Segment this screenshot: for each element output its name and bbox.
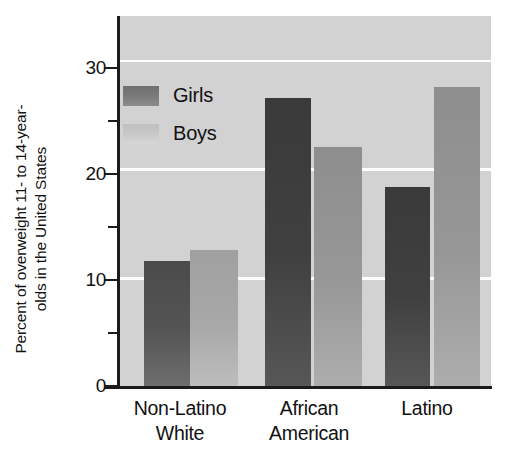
y-tick-label-20: 20 xyxy=(85,163,106,185)
y-axis-title-line-2: olds in the United States xyxy=(31,104,51,353)
x-group-label-african-american-line-1: African xyxy=(244,396,374,421)
legend-label-girls: Girls xyxy=(173,84,213,107)
x-group-label-latino-line-1: Latino xyxy=(372,396,482,421)
legend-item-girls: Girls xyxy=(123,84,213,107)
legend-item-boys: Boys xyxy=(123,122,217,145)
x-group-label-african-american-line-2: American xyxy=(244,421,374,446)
bar-boys-non-latino-white xyxy=(190,250,238,386)
y-tick-label-30: 30 xyxy=(85,57,106,79)
legend-label-boys: Boys xyxy=(173,122,217,145)
y-tick-label-10: 10 xyxy=(85,269,106,291)
x-group-label-african-american: African American xyxy=(244,396,374,446)
bar-boys-latino xyxy=(434,87,480,386)
bar-girls-african-american xyxy=(265,98,311,386)
bar-girls-latino xyxy=(385,187,430,386)
legend-swatch-girls-icon xyxy=(123,86,159,106)
x-group-label-non-latino-white-line-2: White xyxy=(110,421,250,446)
x-axis-line xyxy=(104,386,492,389)
x-group-label-non-latino-white-line-1: Non-Latino xyxy=(110,396,250,421)
gridline-30 xyxy=(120,60,491,63)
bar-chart-figure: Percent of overweight 11- to 14-year- ol… xyxy=(0,0,506,458)
y-axis-title-line-1: Percent of overweight 11- to 14-year- xyxy=(12,104,29,353)
bar-girls-non-latino-white xyxy=(144,261,190,386)
plot-area xyxy=(120,16,491,386)
x-axis-group-labels: Non-Latino White African American Latino xyxy=(104,392,496,458)
x-group-label-latino: Latino xyxy=(372,396,482,421)
bar-boys-african-american xyxy=(314,147,362,386)
y-axis-tick-labels: 30 20 10 0 xyxy=(62,0,110,458)
x-group-label-non-latino-white: Non-Latino White xyxy=(110,396,250,446)
y-axis-title: Percent of overweight 11- to 14-year- ol… xyxy=(0,0,62,458)
legend-swatch-boys-icon xyxy=(123,124,159,144)
